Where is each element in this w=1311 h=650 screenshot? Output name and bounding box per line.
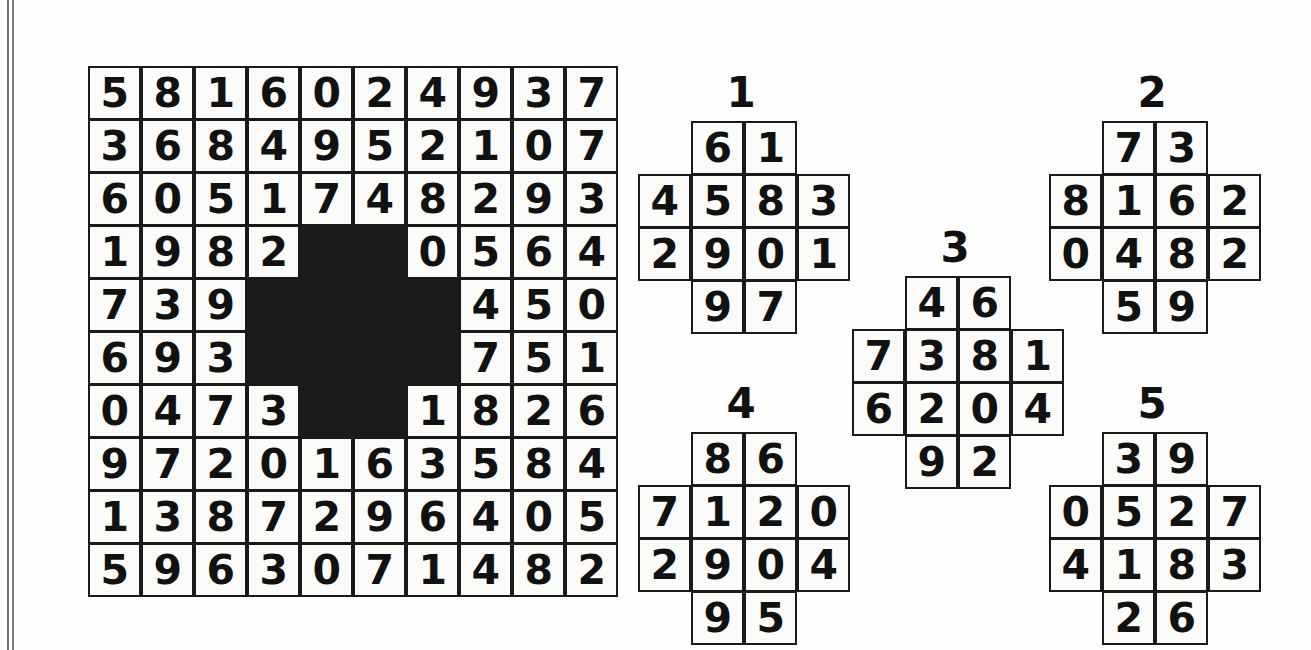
main-grid-cell: 1 bbox=[459, 119, 512, 173]
main-grid-cell: 4 bbox=[459, 543, 512, 597]
main-grid-cell: 8 bbox=[194, 225, 247, 279]
piece-4-grid: 867120290495 bbox=[638, 432, 844, 640]
main-grid-cell: 6 bbox=[141, 119, 194, 173]
main-grid-cell: 6 bbox=[88, 331, 141, 385]
main-grid-cell: 3 bbox=[565, 172, 618, 226]
main-grid-cell: 3 bbox=[88, 119, 141, 173]
piece-2-cell: 3 bbox=[1155, 121, 1208, 175]
piece-5-label: 5 bbox=[1049, 383, 1255, 425]
piece-1-cell: 5 bbox=[691, 174, 744, 228]
main-grid-cell: 3 bbox=[247, 384, 300, 438]
main-grid-cell: 3 bbox=[194, 331, 247, 385]
main-grid-blocked-cell bbox=[247, 278, 300, 332]
main-grid-cell: 2 bbox=[353, 66, 406, 120]
piece-2-cell: 6 bbox=[1155, 174, 1208, 228]
main-grid-cell: 7 bbox=[353, 543, 406, 597]
piece-3-grid: 467381620492 bbox=[852, 276, 1058, 484]
main-grid-cell: 7 bbox=[247, 490, 300, 544]
piece-3-cell: 7 bbox=[852, 329, 905, 383]
main-grid-cell: 5 bbox=[353, 119, 406, 173]
piece-5-empty-cell bbox=[1208, 591, 1261, 645]
piece-4-cell: 6 bbox=[744, 432, 797, 486]
main-grid-cell: 4 bbox=[247, 119, 300, 173]
piece-5-cell: 9 bbox=[1155, 432, 1208, 486]
piece-5-empty-cell bbox=[1049, 432, 1102, 486]
main-grid-cell: 9 bbox=[353, 490, 406, 544]
main-grid-cell: 1 bbox=[88, 490, 141, 544]
main-grid-cell: 2 bbox=[512, 384, 565, 438]
piece-2-cell: 2 bbox=[1208, 227, 1261, 281]
piece-2-empty-cell bbox=[1208, 121, 1261, 175]
piece-4-cell: 2 bbox=[638, 538, 691, 592]
piece-2-empty-cell bbox=[1049, 121, 1102, 175]
piece-3-cell: 8 bbox=[958, 329, 1011, 383]
main-grid-cell: 3 bbox=[141, 278, 194, 332]
piece-4-cell: 0 bbox=[797, 485, 850, 539]
main-grid-cell: 9 bbox=[141, 225, 194, 279]
main-grid-blocked-cell bbox=[300, 225, 353, 279]
main-grid-cell: 4 bbox=[565, 437, 618, 491]
main-grid-cell: 9 bbox=[194, 278, 247, 332]
piece-3-empty-cell bbox=[852, 276, 905, 330]
piece-1-cell: 7 bbox=[744, 280, 797, 334]
main-grid-cell: 1 bbox=[247, 172, 300, 226]
main-grid-cell: 7 bbox=[141, 437, 194, 491]
piece-4: 4 867120290495 bbox=[638, 432, 844, 640]
piece-1-cell: 4 bbox=[638, 174, 691, 228]
main-grid-cell: 2 bbox=[247, 225, 300, 279]
piece-1: 1 614583290197 bbox=[638, 121, 844, 329]
piece-1-cell: 9 bbox=[691, 227, 744, 281]
piece-1-empty-cell bbox=[638, 280, 691, 334]
piece-4-empty-cell bbox=[797, 432, 850, 486]
main-grid-cell: 1 bbox=[88, 225, 141, 279]
main-grid-cell: 4 bbox=[459, 278, 512, 332]
piece-1-label: 1 bbox=[638, 72, 844, 114]
piece-5-empty-cell bbox=[1049, 591, 1102, 645]
main-grid-cell: 8 bbox=[194, 119, 247, 173]
main-grid-cell: 0 bbox=[300, 66, 353, 120]
piece-4-empty-cell bbox=[638, 591, 691, 645]
main-grid-cell: 0 bbox=[406, 225, 459, 279]
main-grid-cell: 7 bbox=[565, 119, 618, 173]
main-grid-blocked-cell bbox=[406, 278, 459, 332]
piece-5-cell: 2 bbox=[1155, 485, 1208, 539]
main-grid-cell: 0 bbox=[141, 172, 194, 226]
main-grid-cell: 5 bbox=[512, 278, 565, 332]
main-grid-cell: 6 bbox=[88, 172, 141, 226]
piece-3-cell: 3 bbox=[905, 329, 958, 383]
main-grid-cell: 4 bbox=[353, 172, 406, 226]
main-grid-cell: 3 bbox=[141, 490, 194, 544]
piece-2: 2 738162048259 bbox=[1049, 121, 1255, 329]
piece-5-cell: 6 bbox=[1155, 591, 1208, 645]
main-grid-cell: 2 bbox=[459, 172, 512, 226]
main-grid-cell: 6 bbox=[194, 543, 247, 597]
main-grid-cell: 8 bbox=[512, 543, 565, 597]
piece-3-label: 3 bbox=[852, 227, 1058, 269]
main-grid-cell: 7 bbox=[459, 331, 512, 385]
main-grid-cell: 8 bbox=[512, 437, 565, 491]
main-grid-cell: 1 bbox=[406, 543, 459, 597]
piece-4-empty-cell bbox=[797, 591, 850, 645]
main-grid-cell: 3 bbox=[512, 66, 565, 120]
piece-5-cell: 5 bbox=[1102, 485, 1155, 539]
main-grid-cell: 2 bbox=[194, 437, 247, 491]
page-edge-rule-inner bbox=[12, 0, 14, 650]
main-grid-cell: 4 bbox=[565, 225, 618, 279]
piece-4-cell: 2 bbox=[744, 485, 797, 539]
piece-4-empty-cell bbox=[638, 432, 691, 486]
piece-2-cell: 8 bbox=[1155, 227, 1208, 281]
main-grid-cell: 4 bbox=[141, 384, 194, 438]
main-grid-cell: 1 bbox=[565, 331, 618, 385]
main-grid-cell: 2 bbox=[300, 490, 353, 544]
piece-3-empty-cell bbox=[852, 435, 905, 489]
main-grid-cell: 6 bbox=[565, 384, 618, 438]
main-grid-cell: 9 bbox=[141, 331, 194, 385]
main-grid-cell: 6 bbox=[512, 225, 565, 279]
piece-3-cell: 2 bbox=[905, 382, 958, 436]
piece-4-cell: 9 bbox=[691, 538, 744, 592]
piece-3-cell: 1 bbox=[1011, 329, 1064, 383]
main-grid-cell: 9 bbox=[512, 172, 565, 226]
piece-2-cell: 4 bbox=[1102, 227, 1155, 281]
piece-4-cell: 0 bbox=[744, 538, 797, 592]
piece-4-cell: 5 bbox=[744, 591, 797, 645]
